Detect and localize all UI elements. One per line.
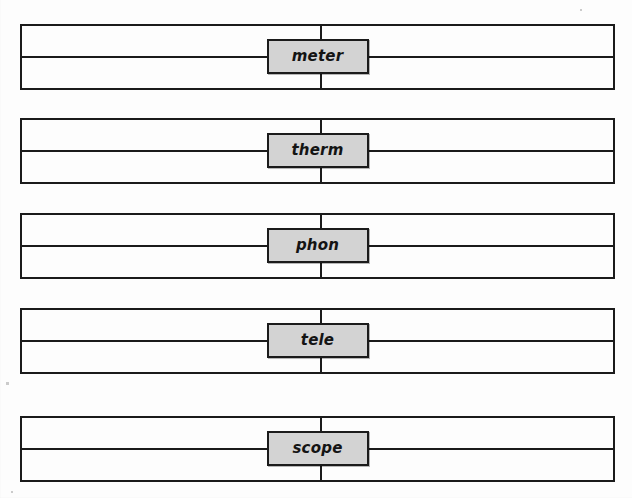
morpheme-label: meter bbox=[292, 49, 344, 64]
morpheme-label-box: therm bbox=[267, 133, 369, 168]
morpheme-label-box: tele bbox=[267, 323, 369, 358]
morpheme-row: scope bbox=[20, 416, 615, 482]
morpheme-row: phon bbox=[20, 213, 615, 279]
morpheme-label-box: scope bbox=[267, 431, 369, 466]
morpheme-label-box: meter bbox=[267, 39, 369, 74]
scan-speck bbox=[6, 382, 9, 385]
morpheme-row: meter bbox=[20, 24, 615, 90]
morpheme-label: phon bbox=[296, 238, 339, 253]
morpheme-label: tele bbox=[301, 333, 334, 348]
morpheme-row: tele bbox=[20, 308, 615, 374]
morpheme-label: therm bbox=[291, 143, 343, 158]
morpheme-diagram-stack: meter therm phon tele scope bbox=[0, 0, 632, 498]
morpheme-row: therm bbox=[20, 118, 615, 184]
scan-speck bbox=[11, 491, 13, 493]
scan-speck bbox=[580, 9, 582, 11]
morpheme-label-box: phon bbox=[267, 228, 369, 263]
morpheme-label: scope bbox=[292, 441, 342, 456]
